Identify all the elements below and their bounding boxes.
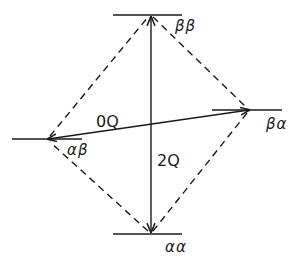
- level-label-beta-alpha: βα: [266, 117, 287, 132]
- transition-label-zero-quantum: 0Q: [96, 114, 119, 130]
- diagram-graphics: [0, 0, 296, 264]
- transition-label-double-quantum: 2Q: [157, 153, 180, 169]
- energy-level-diagram: ββ βα αβ αα 0Q 2Q: [0, 0, 296, 264]
- level-label-alpha-alpha: αα: [165, 240, 187, 255]
- zero-quantum-arrow: [48, 110, 249, 139]
- level-label-alpha-beta: αβ: [67, 143, 88, 158]
- dashed-path-aa-ab: [50, 142, 148, 231]
- level-label-beta-beta: ββ: [175, 19, 196, 34]
- dashed-path-bb-ba: [153, 17, 247, 108]
- dashed-path-ba-aa: [153, 113, 247, 231]
